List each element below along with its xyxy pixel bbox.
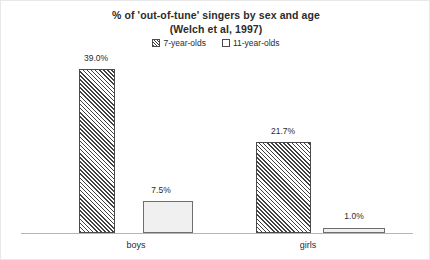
x-axis-label-girls: girls [273, 240, 343, 250]
bar-girls-7-year-olds [256, 142, 311, 233]
bar-value-boys-7: 39.0% [61, 53, 131, 63]
chart-container: % of 'out-of-tune' singers by sex and ag… [0, 0, 430, 260]
bar-boys-11-year-olds [143, 201, 193, 233]
bar-value-boys-11: 7.5% [126, 185, 196, 195]
bar-value-girls-11: 1.0% [319, 211, 389, 221]
bar-boys-7-year-olds [79, 69, 115, 233]
bar-girls-11-year-olds [323, 228, 385, 233]
x-axis-label-boys: boys [101, 240, 171, 250]
plot-area: 39.0% 7.5% 21.7% 1.0% boys girls [1, 1, 430, 260]
bar-value-girls-7: 21.7% [248, 126, 318, 136]
x-axis-line [21, 233, 413, 234]
